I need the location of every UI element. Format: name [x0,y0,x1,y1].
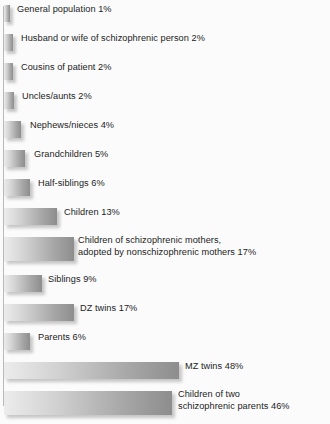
bar-row: Husband or wife of schizophrenic person … [0,29,330,58]
bar-fill [4,121,21,138]
bar-fill [4,63,13,80]
bar-fill [4,304,74,321]
bar-row: Children 13% [0,203,330,232]
bar-row: Cousins of patient 2% [0,58,330,87]
bar-label: Husband or wife of schizophrenic person … [21,33,205,45]
bar-label: General population 1% [17,4,112,16]
bar-fill [4,150,25,167]
bar-fill [4,333,30,350]
bar-row: Children of schizophrenic mothers,adopte… [0,232,330,270]
bar-fill [4,208,57,225]
bar-rows-container: General population 1%Husband or wife of … [0,0,330,424]
bar-fill [4,5,10,22]
bar-label: Parents 6% [38,332,86,344]
bar-row: Half-siblings 6% [0,174,330,203]
bar-fill [4,92,14,109]
bar-row: Grandchildren 5% [0,145,330,174]
bar-row: General population 1% [0,0,330,29]
bar-label: Siblings 9% [48,274,97,286]
bar-label: MZ twins 48% [185,361,243,373]
bar-fill [4,391,172,415]
bar-label: Uncles/aunts 2% [22,91,92,103]
bar-label: Nephews/nieces 4% [30,120,114,132]
bar-label: Half-siblings 6% [38,178,105,190]
bar-row: MZ twins 48% [0,357,330,386]
bar-fill [4,179,30,196]
bar-row: Children of twoschizophrenic parents 46% [0,386,330,424]
bar-row: Siblings 9% [0,270,330,299]
bar-label: DZ twins 17% [80,303,137,315]
bar-label: Cousins of patient 2% [21,62,111,74]
bar-row: Nephews/nieces 4% [0,116,330,145]
bar-label-line-2: adopted by nonschizophrenic mothers 17% [78,247,256,257]
bar-row: Parents 6% [0,328,330,357]
bar-label-line-2: schizophrenic parents 46% [178,401,290,411]
bar-fill [4,275,42,292]
bar-label: Children of twoschizophrenic parents 46% [178,389,290,412]
bar-fill [4,362,179,379]
bar-row: DZ twins 17% [0,299,330,328]
bar-label: Children of schizophrenic mothers,adopte… [78,235,256,258]
bar-fill [4,34,13,51]
bar-fill [4,237,74,261]
bar-row: Uncles/aunts 2% [0,87,330,116]
bar-label: Grandchildren 5% [34,149,108,161]
bar-label: Children 13% [64,207,120,219]
